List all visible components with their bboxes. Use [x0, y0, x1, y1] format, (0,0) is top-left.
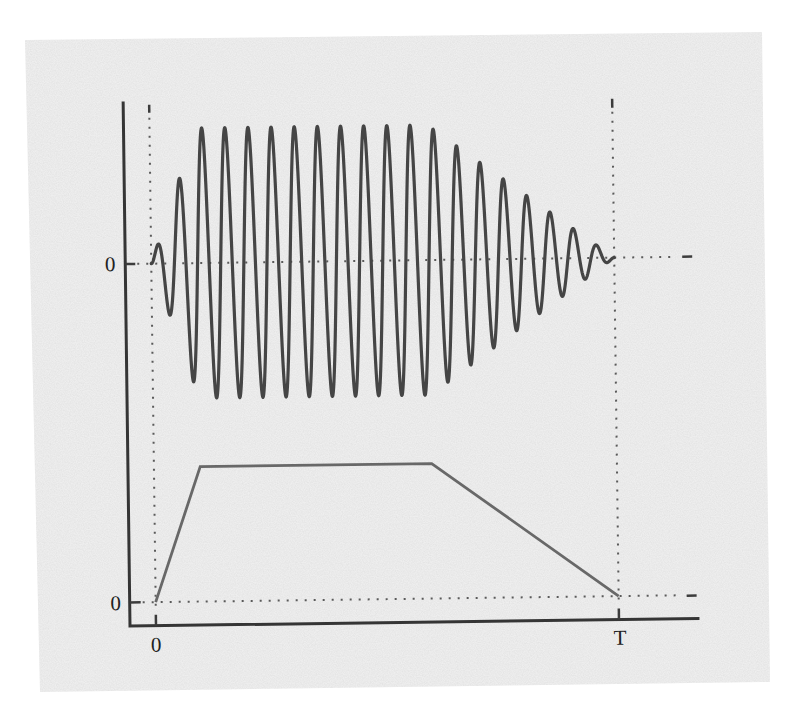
y-label-upper-zero: 0 [105, 252, 116, 276]
y-label-lower-zero: 0 [110, 591, 121, 615]
x-label-T: T [614, 625, 627, 649]
x-label-zero: 0 [151, 633, 162, 657]
signal-envelope-figure: 0 0 0 T [0, 0, 803, 716]
